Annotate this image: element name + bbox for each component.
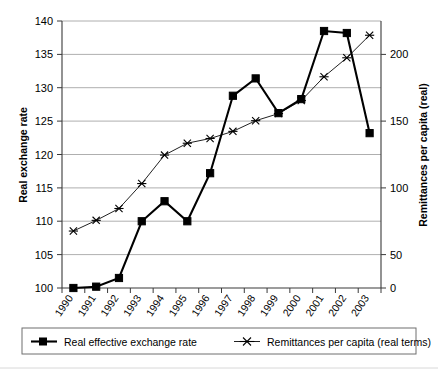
ytick-label-135: 135 (35, 48, 53, 60)
y2tick-label-0: 0 (390, 282, 396, 294)
ytick-label-120: 120 (35, 149, 53, 161)
datapoint-1999 (275, 110, 282, 117)
datapoint-1996 (207, 170, 214, 177)
datapoint-2002 (343, 29, 350, 36)
datapoint-1990 (70, 284, 77, 291)
right-axis-title: Remittances per capita (real) (417, 83, 429, 227)
datapoint-2003 (366, 130, 373, 137)
ytick-label-105: 105 (35, 249, 53, 261)
ytick-label-130: 130 (35, 82, 53, 94)
chart-figure: Real exchange rate Remittances per capit… (0, 0, 438, 375)
square-marker-icon (40, 338, 47, 345)
left-axis-title: Real exchange rate (17, 107, 29, 203)
datapoint-1997 (229, 92, 236, 99)
datapoint-2001 (320, 27, 327, 34)
ytick-label-125: 125 (35, 115, 53, 127)
datapoint-1995 (184, 218, 191, 225)
ytick-label-140: 140 (35, 15, 53, 27)
ytick-label-100: 100 (35, 282, 53, 294)
datapoint-1994 (161, 198, 168, 205)
datapoint-1992 (115, 274, 122, 281)
ytick-label-115: 115 (35, 182, 53, 194)
legend-label-exchange-rate: Real effective exchange rate (64, 336, 197, 348)
y2tick-label-50: 50 (390, 249, 402, 261)
y2tick-label-150: 150 (390, 115, 408, 127)
ytick-label-110: 110 (35, 215, 53, 227)
datapoint-1998 (252, 75, 259, 82)
legend-label-remittances: Remittances per capita (real terms) (267, 336, 431, 348)
datapoint-1993 (138, 218, 145, 225)
y2tick-label-200: 200 (390, 48, 408, 60)
datapoint-1991 (93, 283, 100, 290)
y2tick-label-100: 100 (390, 182, 408, 194)
datapoint-2000 (298, 95, 305, 102)
